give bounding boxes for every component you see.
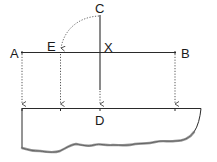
label-b: B — [181, 47, 190, 60]
diagram-canvas — [0, 0, 217, 162]
label-d: D — [95, 114, 104, 127]
label-a: A — [10, 47, 19, 60]
label-c: C — [95, 2, 104, 15]
point-b-mark — [174, 52, 176, 54]
label-e: E — [47, 40, 56, 53]
label-x: X — [104, 41, 113, 54]
point-a-mark — [21, 52, 23, 54]
arc-c-to-e — [61, 16, 99, 48]
